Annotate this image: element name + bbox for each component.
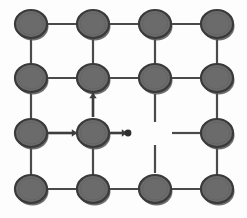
graph-node[interactable]: [201, 119, 235, 150]
path-terminal-dot: [125, 130, 132, 137]
node-body: [201, 10, 233, 38]
graph-node[interactable]: [139, 175, 173, 206]
edge-layer: [31, 24, 217, 189]
graph-node[interactable]: [201, 175, 235, 206]
graph-node[interactable]: [77, 119, 111, 150]
graph-node[interactable]: [15, 10, 49, 41]
graph-node[interactable]: [15, 175, 49, 206]
node-body: [201, 119, 233, 147]
graph-node[interactable]: [77, 10, 111, 41]
directed-arrow: [89, 93, 96, 117]
node-body: [15, 175, 47, 203]
node-body: [15, 10, 47, 38]
graph-node[interactable]: [15, 64, 49, 95]
node-body: [139, 10, 171, 38]
node-body: [15, 64, 47, 92]
graph-node[interactable]: [139, 10, 173, 41]
graph-node[interactable]: [201, 64, 235, 95]
node-body: [139, 64, 171, 92]
graph-node[interactable]: [139, 64, 173, 95]
graph-node[interactable]: [201, 10, 235, 41]
graph-svg-root: [0, 0, 247, 218]
stub-layer: [155, 94, 201, 173]
graph-node[interactable]: [77, 64, 111, 95]
node-body: [77, 64, 109, 92]
directed-arrow: [109, 129, 127, 136]
node-body: [201, 64, 233, 92]
node-body: [77, 119, 109, 147]
graph-node[interactable]: [15, 119, 49, 150]
graph-diagram-canvas: [0, 0, 247, 218]
node-body: [201, 175, 233, 203]
node-body: [15, 119, 47, 147]
node-body: [77, 10, 109, 38]
node-layer: [15, 10, 235, 206]
node-body: [139, 175, 171, 203]
node-body: [77, 175, 109, 203]
directed-arrow: [47, 129, 77, 136]
graph-node[interactable]: [77, 175, 111, 206]
